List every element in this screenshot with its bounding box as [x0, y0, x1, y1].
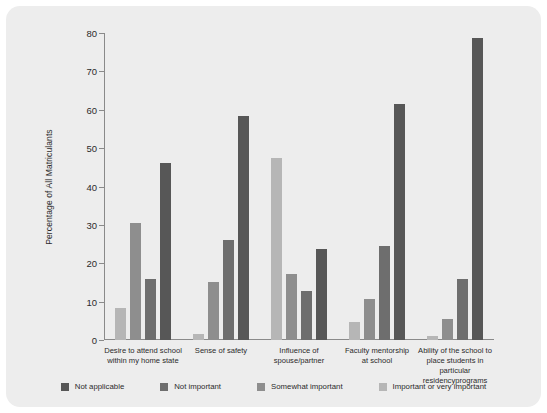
- bar[interactable]: [115, 308, 126, 340]
- legend-item-label: Not important: [174, 382, 221, 391]
- bar-group: [182, 33, 260, 340]
- bar-group-bars: [104, 33, 182, 340]
- legend-item[interactable]: Not important: [160, 382, 221, 391]
- bar[interactable]: [160, 163, 171, 340]
- y-axis-tick-label: 50: [86, 143, 97, 154]
- legend-swatch-icon: [257, 383, 265, 391]
- bar[interactable]: [193, 334, 204, 340]
- y-axis-title-label: Percentage of All Matriculants: [44, 129, 54, 244]
- y-axis-tick: [99, 340, 104, 341]
- legend-swatch-icon: [61, 383, 69, 391]
- legend-item[interactable]: Somewhat important: [257, 382, 343, 391]
- y-axis-tick-label: 60: [86, 104, 97, 115]
- y-axis-tick-label: 20: [86, 258, 97, 269]
- bar[interactable]: [349, 322, 360, 340]
- legend-item[interactable]: Not applicable: [61, 382, 124, 391]
- bar[interactable]: [442, 319, 453, 340]
- bar-group-bars: [338, 33, 416, 340]
- y-axis-tick-label: 30: [86, 219, 97, 230]
- y-axis-tick-label: 80: [86, 28, 97, 39]
- y-axis-tick-label: 10: [86, 296, 97, 307]
- bar[interactable]: [223, 240, 234, 340]
- y-axis-tick-label: 0: [92, 335, 97, 346]
- legend-item[interactable]: Important or very important: [379, 382, 487, 391]
- bar-group: [416, 33, 494, 340]
- x-axis-category-label: Desire to attend school within my home s…: [104, 346, 182, 366]
- bar[interactable]: [208, 282, 219, 340]
- bar-group: [104, 33, 182, 340]
- x-axis-category-label: Ability of the school to place students …: [416, 346, 494, 386]
- bar[interactable]: [238, 116, 249, 340]
- bar-group-bars: [182, 33, 260, 340]
- figure-container: Percentage of All Matriculants 010203040…: [0, 0, 547, 413]
- bar[interactable]: [145, 279, 156, 340]
- legend: Not applicableNot importantSomewhat impo…: [6, 382, 541, 391]
- bar[interactable]: [457, 279, 468, 340]
- legend-swatch-icon: [160, 383, 168, 391]
- bar-group-bars: [416, 33, 494, 340]
- legend-swatch-icon: [379, 383, 387, 391]
- bar-group: [338, 33, 416, 340]
- bar[interactable]: [394, 104, 405, 340]
- y-axis-tick-label: 40: [86, 181, 97, 192]
- y-axis-tick-label: 70: [86, 66, 97, 77]
- bar[interactable]: [472, 38, 483, 340]
- bar[interactable]: [379, 246, 390, 340]
- bar[interactable]: [271, 158, 282, 340]
- legend-item-label: Important or very important: [393, 382, 487, 391]
- bar-group-bars: [260, 33, 338, 340]
- bar[interactable]: [427, 336, 438, 340]
- bar[interactable]: [286, 274, 297, 340]
- x-axis-category-label: Faculty mentorship at school: [338, 346, 416, 366]
- bar[interactable]: [301, 291, 312, 340]
- chart-panel: Percentage of All Matriculants 010203040…: [6, 6, 541, 407]
- y-axis-title: Percentage of All Matriculants: [42, 33, 56, 340]
- plot-area: 01020304050607080: [104, 33, 494, 340]
- bar[interactable]: [364, 299, 375, 340]
- bar[interactable]: [316, 249, 327, 340]
- bar[interactable]: [130, 223, 141, 340]
- x-axis-category-label: Influence of spouse/partner: [260, 346, 338, 366]
- x-axis-category-label: Sense of safety: [182, 346, 260, 356]
- legend-item-label: Not applicable: [75, 382, 124, 391]
- bar-group: [260, 33, 338, 340]
- legend-item-label: Somewhat important: [271, 382, 343, 391]
